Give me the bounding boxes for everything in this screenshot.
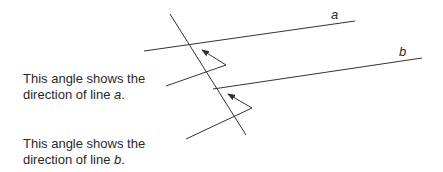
line-b — [213, 58, 422, 89]
caption-b-line2-prefix: direction of line — [23, 152, 114, 167]
angle-a-tail-line — [166, 65, 226, 86]
caption-a-line2-prefix: direction of line — [23, 87, 114, 102]
caption-b-line2: direction of line b. — [23, 152, 145, 168]
caption-angle-a: This angle shows the direction of line a… — [23, 71, 145, 103]
caption-a-line1: This angle shows the — [23, 71, 145, 87]
caption-angle-b: This angle shows the direction of line b… — [23, 136, 145, 168]
caption-a-line2: direction of line a. — [23, 87, 145, 103]
angle-a-arrow-icon — [202, 50, 226, 65]
transversal-line — [170, 14, 246, 135]
caption-a-line2-suffix: . — [121, 87, 125, 102]
caption-b-line2-suffix: . — [121, 152, 125, 167]
angle-b-tail-line — [186, 108, 252, 139]
line-a-label: a — [331, 8, 338, 21]
angle-b-arrow-icon — [228, 94, 252, 108]
angle-indicator-b — [186, 94, 252, 139]
line-b-label: b — [399, 45, 406, 58]
line-a — [144, 21, 355, 51]
caption-b-line1: This angle shows the — [23, 136, 145, 152]
